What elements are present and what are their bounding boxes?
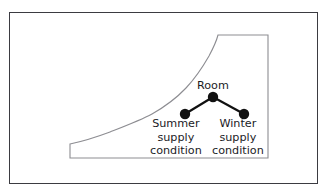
summer-label-line-2: supply [150,131,202,145]
summer-label-line-1: Summer [150,117,202,131]
winter-label-line-1: Winter [212,117,264,131]
summer-label-line-3: condition [150,144,202,158]
summer-supply-condition-label: Summer supply condition [150,117,202,158]
room-label: Room [197,79,229,93]
room-to-winter-supply-line [213,97,244,114]
winter-supply-condition-label: Winter supply condition [212,117,264,158]
room-label-line-1: Room [197,79,229,93]
figure-root: Room Summer supply condition Winter supp… [0,0,326,194]
room-point-marker [208,92,218,102]
winter-label-line-3: condition [212,144,264,158]
psychrometric-chart-graphic [0,0,326,194]
winter-label-line-2: supply [212,131,264,145]
